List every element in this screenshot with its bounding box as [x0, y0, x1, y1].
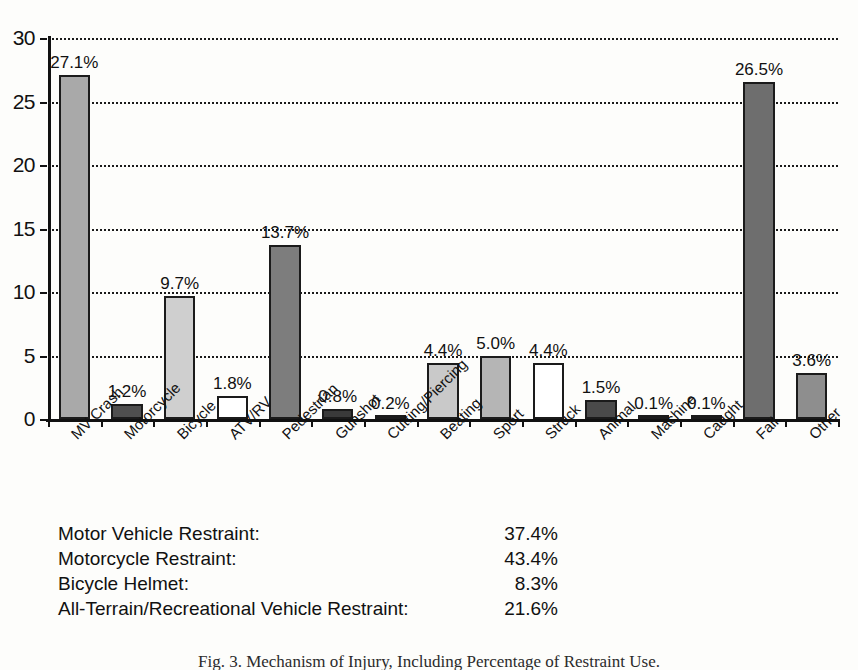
y-axis-tick-mark — [40, 292, 47, 294]
bar — [59, 75, 91, 419]
restraint-label: Motorcycle Restraint: — [58, 546, 448, 571]
restraint-row: All-Terrain/Recreational Vehicle Restrai… — [58, 596, 658, 621]
y-axis-tick-label: 30 — [0, 27, 35, 48]
x-axis-tick-mark — [785, 419, 787, 427]
restraint-value: 21.6% — [448, 596, 558, 621]
plot-area — [48, 38, 838, 419]
x-axis-tick-mark — [417, 419, 419, 427]
restraint-label: Motor Vehicle Restraint: — [58, 521, 448, 546]
bar-value-label: 1.8% — [192, 375, 272, 392]
gridline — [48, 229, 838, 231]
y-axis-tick-label: 25 — [0, 91, 35, 112]
bar-chart: 05101520253027.1%MV Crash1.2%Motorcycle9… — [0, 0, 858, 500]
bar-value-label: 13.7% — [245, 224, 325, 241]
figure-caption: Fig. 3. Mechanism of Injury, Including P… — [0, 652, 858, 670]
x-axis-tick-mark — [259, 419, 261, 427]
y-axis-tick-mark — [40, 102, 47, 104]
y-axis-tick-mark — [40, 229, 47, 231]
x-axis-tick-mark — [153, 419, 155, 427]
y-axis-tick-mark — [40, 356, 47, 358]
bar-value-label: 9.7% — [140, 275, 220, 292]
bar-value-label: 3.6% — [772, 352, 852, 369]
x-axis-tick-mark — [206, 419, 208, 427]
bar — [743, 82, 775, 419]
x-axis-tick-mark — [311, 419, 313, 427]
restraint-value: 37.4% — [448, 521, 558, 546]
x-axis-tick-mark — [680, 419, 682, 427]
gridline — [48, 102, 838, 104]
x-axis-tick-mark — [469, 419, 471, 427]
x-axis-tick-mark — [522, 419, 524, 427]
x-axis-tick-mark — [48, 419, 50, 427]
restraint-summary-table: Motor Vehicle Restraint:37.4%Motorcycle … — [58, 521, 658, 621]
y-axis-tick-label: 0 — [0, 408, 35, 429]
restraint-row: Motor Vehicle Restraint:37.4% — [58, 521, 658, 546]
y-axis-tick-label: 5 — [0, 345, 35, 366]
restraint-value: 43.4% — [448, 546, 558, 571]
y-axis-tick-mark — [40, 165, 47, 167]
y-axis-tick-label: 10 — [0, 281, 35, 302]
bar-value-label: 26.5% — [719, 61, 799, 78]
x-axis-tick-mark — [627, 419, 629, 427]
bar — [269, 245, 301, 419]
bar-value-label: 4.4% — [508, 342, 588, 359]
gridline — [48, 38, 838, 40]
y-axis-tick-label: 20 — [0, 154, 35, 175]
bar-value-label: 27.1% — [34, 54, 114, 71]
restraint-label: All-Terrain/Recreational Vehicle Restrai… — [58, 596, 448, 621]
x-axis-tick-mark — [733, 419, 735, 427]
x-axis-tick-mark — [101, 419, 103, 427]
restraint-label: Bicycle Helmet: — [58, 571, 448, 596]
bar-value-label: 1.5% — [561, 379, 641, 396]
restraint-row: Motorcycle Restraint:43.4% — [58, 546, 658, 571]
x-axis-tick-mark — [838, 419, 840, 427]
x-axis-tick-mark — [364, 419, 366, 427]
restraint-value: 8.3% — [448, 571, 558, 596]
restraint-row: Bicycle Helmet:8.3% — [58, 571, 658, 596]
y-axis-tick-mark — [40, 38, 47, 40]
y-axis-tick-mark — [40, 419, 47, 421]
gridline — [48, 165, 838, 167]
bar — [480, 356, 512, 420]
y-axis-tick-label: 15 — [0, 218, 35, 239]
x-axis-tick-mark — [575, 419, 577, 427]
